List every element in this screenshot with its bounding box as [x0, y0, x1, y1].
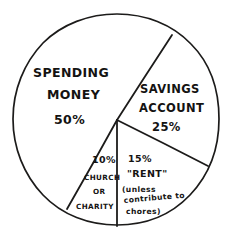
slice-label-spending: SPENDING MONEY 50%: [33, 65, 109, 127]
charity-label-line3: CHARITY: [76, 202, 114, 211]
rent-percent: 15%: [128, 153, 152, 164]
savings-label-line2: ACCOUNT: [139, 101, 204, 115]
charity-label-line1: CHURCH: [84, 173, 120, 182]
savings-percent: 25%: [152, 120, 181, 134]
charity-percent: 10%: [92, 154, 116, 165]
hand-drawn-pie-chart: SPENDING MONEY 50% SAVINGS ACCOUNT 25% 1…: [0, 0, 226, 236]
savings-label-line1: SAVINGS: [140, 82, 200, 96]
spending-percent: 50%: [54, 112, 85, 127]
slice-label-savings: SAVINGS ACCOUNT 25%: [139, 82, 204, 134]
charity-label-line2: OR: [93, 187, 106, 196]
spending-label-line2: MONEY: [47, 87, 101, 102]
rent-note-line3: chores): [126, 207, 161, 216]
spending-label-line1: SPENDING: [33, 65, 109, 80]
rent-label: "RENT": [127, 168, 168, 179]
pie-outline-circle: [13, 14, 219, 225]
pie-chart-figure: SPENDING MONEY 50% SAVINGS ACCOUNT 25% 1…: [0, 0, 226, 236]
